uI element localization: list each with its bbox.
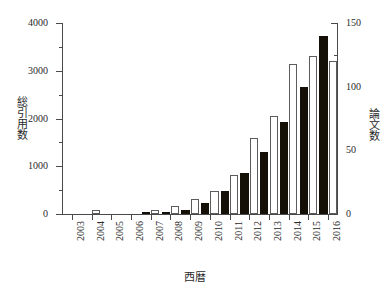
x-tick-2011 [230,215,231,220]
bar-group [318,23,338,214]
x-tick-2008 [170,215,171,220]
bar-group [259,23,279,214]
bar-citations-2014 [280,122,288,214]
bar-group [101,23,121,214]
x-tick-2007 [151,215,152,220]
bar-papers-2016 [329,61,337,214]
bar-citations-2012 [240,173,248,214]
x-tick-label-2008: 2008 [174,221,184,241]
x-tick-label-2011: 2011 [234,221,244,241]
bar-group [180,23,200,214]
bar-citations-2009 [181,210,189,214]
bar-citations-2008 [162,212,170,214]
x-tick-2006 [131,215,132,220]
bar-papers-2012 [250,138,258,214]
bar-citations-2016 [319,36,327,214]
bar-group [62,23,82,214]
bar-group [141,23,161,214]
y-axis-left-title: 総引用数 [14,96,28,140]
bar-papers-2013 [270,116,278,214]
bar-papers-2010 [210,191,218,214]
y-tick-label-left-2000: 2000 [28,114,48,124]
bar-citations-2013 [260,152,268,214]
x-tick-2014 [289,215,290,220]
bar-papers-2007 [151,210,159,214]
bar-citations-2011 [221,191,229,214]
x-tick-2009 [190,215,191,220]
plot-area: 01000200030004000 050100150 [62,23,338,215]
bar-papers-2009 [191,199,199,214]
x-axis-line [62,214,338,215]
x-tick-2013 [269,215,270,220]
bar-group [239,23,259,214]
citation-paper-bar-chart: 総引用数 論文数 西暦 01000200030004000 050100150 … [0,0,390,289]
x-tick-2012 [249,215,250,220]
bar-papers-2014 [289,64,297,214]
y-axis-right-title: 論文数 [366,108,380,141]
x-tick-label-2014: 2014 [293,221,303,241]
bar-group [279,23,299,214]
x-tick-2010 [210,215,211,220]
x-tick-label-2016: 2016 [332,221,342,241]
bar-group [220,23,240,214]
bar-papers-2004 [92,210,100,214]
x-tick-label-2005: 2005 [115,221,125,241]
x-tick-2003 [72,215,73,220]
x-axis-title: 西暦 [0,268,390,284]
bar-citations-2010 [201,203,209,214]
bar-group [82,23,102,214]
bar-group [161,23,181,214]
y-tick-label-right-0: 0 [346,209,351,219]
x-tick-2005 [111,215,112,220]
x-tick-label-2003: 2003 [76,221,86,241]
y-tick-left-0: 0 [56,214,63,215]
bar-group [200,23,220,214]
y-tick-label-left-3000: 3000 [28,66,48,76]
bar-papers-2011 [230,175,238,214]
bar-group [121,23,141,214]
x-tick-label-2010: 2010 [214,221,224,241]
x-tick-label-2007: 2007 [155,221,165,241]
x-tick-2004 [92,215,93,220]
bar-group [299,23,319,214]
y-tick-label-left-0: 0 [43,209,48,219]
y-tick-label-left-1000: 1000 [28,161,48,171]
bar-citations-2015 [300,87,308,214]
y-tick-label-left-4000: 4000 [28,18,48,28]
x-tick-label-2013: 2013 [273,221,283,241]
bar-papers-2008 [171,206,179,214]
x-tick-label-2012: 2012 [253,221,263,241]
y-tick-label-right-50: 50 [346,145,356,155]
x-tick-2016 [328,215,329,220]
x-tick-label-2009: 2009 [194,221,204,241]
bar-citations-2007 [142,212,150,214]
x-tick-label-2004: 2004 [96,221,106,241]
x-tick-2015 [308,215,309,220]
x-tick-label-2006: 2006 [135,221,145,241]
x-tick-label-2015: 2015 [312,221,322,241]
bar-papers-2015 [309,56,317,214]
y-tick-label-right-100: 100 [346,82,361,92]
y-tick-right-0: 0 [331,214,338,215]
y-tick-label-right-150: 150 [346,18,361,28]
